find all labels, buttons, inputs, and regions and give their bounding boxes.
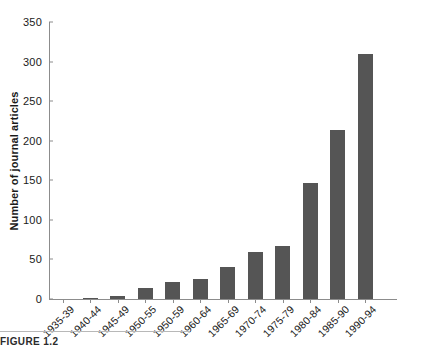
bar-slot bbox=[214, 22, 242, 299]
bar bbox=[358, 54, 373, 299]
bar bbox=[330, 130, 345, 299]
figure-container: Number of journal articles 0501001502002… bbox=[0, 0, 425, 345]
bar-series bbox=[49, 22, 411, 299]
bar bbox=[248, 252, 263, 299]
plot-area: 050100150200250300350 bbox=[49, 22, 411, 299]
figure-caption: FIGURE 1.2 bbox=[0, 336, 200, 345]
bar-slot bbox=[159, 22, 187, 299]
y-axis-title-label: Number of journal articles bbox=[8, 91, 20, 230]
y-axis-title: Number of journal articles bbox=[6, 22, 22, 299]
caption-divider bbox=[0, 331, 190, 332]
bar-slot bbox=[187, 22, 215, 299]
bar-slot bbox=[269, 22, 297, 299]
bar-slot bbox=[132, 22, 160, 299]
bar-slot bbox=[77, 22, 105, 299]
bar bbox=[275, 246, 290, 299]
bar bbox=[165, 282, 180, 299]
y-axis-tick-label: 200 bbox=[23, 135, 49, 147]
bar-slot bbox=[104, 22, 132, 299]
bar-slot bbox=[324, 22, 352, 299]
y-axis-tick-label: 250 bbox=[23, 95, 49, 107]
y-axis-tick-label: 100 bbox=[23, 214, 49, 226]
y-axis-tick-label: 300 bbox=[23, 56, 49, 68]
bar-slot bbox=[49, 22, 77, 299]
y-axis-tick-label: 50 bbox=[29, 253, 49, 265]
bar bbox=[138, 288, 153, 299]
bar-slot bbox=[297, 22, 325, 299]
y-axis-tick-label: 0 bbox=[36, 293, 49, 305]
y-axis-tick-label: 350 bbox=[23, 16, 49, 28]
y-axis-tick-label: 150 bbox=[23, 174, 49, 186]
bar-slot bbox=[352, 22, 380, 299]
bar bbox=[193, 279, 208, 299]
bar bbox=[303, 183, 318, 299]
bar bbox=[220, 267, 235, 299]
bar-slot bbox=[242, 22, 270, 299]
x-axis-line bbox=[49, 299, 397, 300]
